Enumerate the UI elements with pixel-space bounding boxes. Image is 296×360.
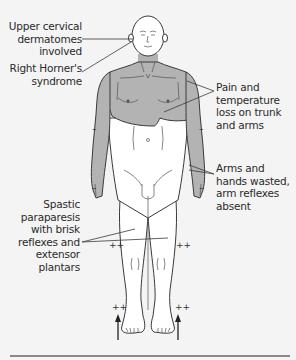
label-line: loss on trunk (216, 106, 296, 119)
label-line: Upper cervical (4, 20, 82, 33)
label-line: plantars (4, 261, 80, 274)
label-upper-cervical-dermatomes: Upper cervical dermatomes involved (4, 20, 82, 58)
label-line: dermatomes (4, 33, 82, 46)
reflex-marker-ankle-right: ++ (112, 302, 127, 312)
label-right-horners-syndrome: Right Horner's syndrome (4, 62, 82, 87)
label-line: with brisk (4, 223, 80, 236)
label-line: Pain and (216, 81, 296, 94)
label-line: paraparesis (4, 211, 80, 224)
reflex-marker-knee-right: ++ (109, 240, 124, 250)
label-line: extensor (4, 248, 80, 261)
syringomyelia-figure: Upper cervical dermatomes involved Right… (0, 0, 296, 360)
reflex-marker-arm-lower-left: – (199, 183, 204, 193)
label-line: Spastic (4, 198, 80, 211)
reflex-marker-arm-lower-right: – (92, 183, 97, 193)
label-pain-temperature-loss: Pain and temperature loss on trunk and a… (216, 81, 296, 131)
label-line: and arms (216, 119, 296, 132)
reflex-marker-arm-upper-left: – (199, 124, 204, 134)
up-arrow-icon-right (175, 314, 181, 340)
label-line: absent (216, 200, 296, 213)
label-arms-hands-wasted: Arms and hands wasted, arm reflexes abse… (216, 162, 296, 212)
label-line: Right Horner's (4, 62, 82, 75)
label-line: hands wasted, (216, 175, 296, 188)
label-line: syndrome (4, 75, 82, 88)
label-line: temperature (216, 94, 296, 107)
up-arrow-icon-left (115, 314, 121, 340)
bottom-divider (10, 355, 290, 357)
reflex-marker-arm-upper-right: – (92, 124, 97, 134)
reflex-marker-knee-left: ++ (176, 240, 191, 250)
reflex-marker-ankle-left: ++ (175, 302, 190, 312)
label-line: arm reflexes (216, 187, 296, 200)
label-spastic-paraparesis: Spastic paraparesis with brisk reflexes … (4, 198, 80, 273)
label-line: Arms and (216, 162, 296, 175)
label-line: involved (4, 45, 82, 58)
label-line: reflexes and (4, 236, 80, 249)
